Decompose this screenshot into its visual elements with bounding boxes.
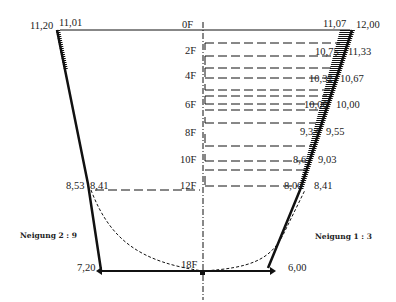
- right-inner-value-4f: 10,32: [309, 73, 333, 84]
- right-outer-value-8f: 9,55: [326, 126, 344, 137]
- right-outer-value-2f: 11,33: [348, 46, 371, 57]
- depth-label-8f: 8F: [185, 127, 196, 138]
- right-inner-value-10f: 8,67: [293, 154, 311, 165]
- right-outer-value-0f: 12,00: [356, 19, 380, 30]
- bed-arrow-right: [270, 267, 276, 275]
- left-top-outer-value: 11,20: [30, 20, 53, 31]
- right-inner-value-2f: 10,75: [315, 46, 339, 57]
- right-inner-value-6f: 10,00: [304, 99, 328, 110]
- left-mid-inner-value: 8,41: [90, 180, 108, 191]
- right-outer-value-4f: 10,67: [340, 73, 364, 84]
- left-slope-label: Neigung 2 : 9: [20, 231, 77, 240]
- depth-label-12f: 12F: [180, 180, 197, 191]
- bed-arrow-left: [96, 267, 102, 275]
- depth-label-18f: 18F: [181, 259, 198, 270]
- right-slope-label: Neigung 1 : 3: [315, 232, 372, 241]
- left-bottom-value: 7,20: [77, 262, 95, 273]
- depth-label-4f: 4F: [185, 70, 196, 81]
- depth-label-0f: 0F: [182, 19, 193, 30]
- depth-label-6f: 6F: [185, 99, 196, 110]
- canal-cross-section-diagram: 0F 2F 4F 6F 8F 10F 12F 18F 11,20 11,01 8…: [0, 0, 396, 302]
- right-inner-value-8f: 9,33: [300, 126, 318, 137]
- right-inner-value-0f: 11,07: [323, 18, 346, 29]
- right-outer-value-6f: 10,00: [336, 99, 360, 110]
- depth-label-10f: 10F: [180, 154, 197, 165]
- left-mid-outer-value: 8,53: [66, 180, 84, 191]
- depth-label-2f: 2F: [185, 45, 196, 56]
- right-outer-value-12f: 8,41: [314, 180, 332, 191]
- right-outer-value-10f: 9,03: [318, 154, 336, 165]
- right-inner-value-12f: 8,00: [284, 180, 302, 191]
- left-bank-hatch: [56, 30, 68, 70]
- right-bottom-value: 6,00: [288, 262, 306, 273]
- left-top-inner-value: 11,01: [59, 17, 82, 28]
